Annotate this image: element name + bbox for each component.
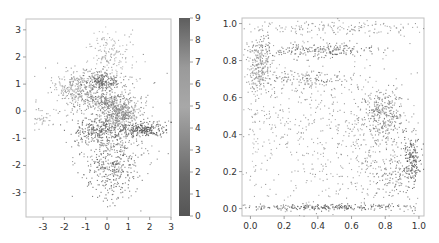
- y-tick-label: 0: [15, 106, 21, 116]
- y-tick-label: 1: [15, 79, 21, 89]
- colorbar-tick-label: 9: [195, 13, 201, 23]
- x-tick-label: -1: [81, 222, 90, 232]
- y-tick-label: 0.8: [223, 56, 238, 66]
- colorbar-gradient: [179, 18, 190, 216]
- left-scatter-plot: -3-2-10123 3210-1-2-3: [12, 19, 174, 232]
- colorbar-tick-label: 2: [195, 167, 201, 177]
- y-tick-label: -3: [12, 188, 21, 198]
- x-tick-label: 0.0: [243, 221, 258, 231]
- x-tick-label: 0.4: [311, 221, 326, 231]
- y-tick-label: 3: [15, 25, 21, 35]
- colorbar-tick-label: 5: [195, 101, 201, 111]
- colorbar-tick-label: 1: [195, 189, 201, 199]
- colorbar-tick-label: 8: [195, 35, 201, 45]
- colorbar-tick-label: 0: [195, 211, 201, 221]
- colorbar-tick-label: 4: [195, 123, 201, 133]
- y-tick-label: 0.4: [223, 130, 238, 140]
- colorbar: 9876543210: [179, 13, 201, 221]
- left-scatter-points: [34, 26, 172, 211]
- y-tick-label: 0.2: [223, 167, 237, 177]
- right-scatter-points: [243, 18, 425, 217]
- x-tick-label: 1: [125, 222, 131, 232]
- colorbar-tick-label: 3: [195, 145, 201, 155]
- colorbar-tick-label: 6: [195, 79, 201, 89]
- right-scatter-plot: 0.00.20.40.60.81.0 1.00.80.60.40.20.0: [223, 18, 427, 231]
- right-y-axis: 1.00.80.60.40.20.0: [223, 19, 242, 214]
- left-axes-frame: [26, 19, 171, 217]
- x-tick-label: 0.6: [344, 221, 359, 231]
- y-tick-label: -1: [12, 133, 21, 143]
- left-y-axis: 3210-1-2-3: [12, 25, 26, 198]
- x-tick-label: 3: [168, 222, 174, 232]
- x-tick-label: -2: [60, 222, 69, 232]
- y-tick-label: 0.6: [223, 93, 238, 103]
- colorbar-tick-label: 7: [195, 57, 201, 67]
- y-tick-label: 1.0: [223, 19, 238, 29]
- y-tick-label: 2: [15, 52, 21, 62]
- left-x-axis: -3-2-10123: [39, 217, 174, 232]
- y-tick-label: -2: [12, 160, 21, 170]
- colorbar-ticks: 9876543210: [190, 13, 201, 221]
- x-tick-label: 0.2: [277, 221, 291, 231]
- figure: -3-2-10123 3210-1-2-3 9876543210 0.00.20…: [0, 0, 439, 243]
- x-tick-label: 1.0: [412, 221, 427, 231]
- x-tick-label: 0: [104, 222, 110, 232]
- y-tick-label: 0.0: [223, 204, 238, 214]
- right-x-axis: 0.00.20.40.60.81.0: [243, 216, 426, 231]
- x-tick-label: -3: [39, 222, 48, 232]
- x-tick-label: 2: [147, 222, 153, 232]
- x-tick-label: 0.8: [378, 221, 393, 231]
